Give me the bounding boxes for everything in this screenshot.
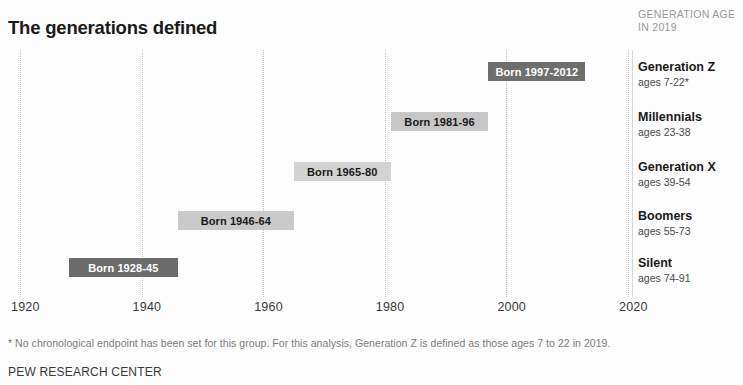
generations-chart-figure: The generations defined GENERATION AGE I… [0, 0, 743, 385]
legend-item-ages: ages 74-91 [638, 271, 743, 285]
legend-item-name: Silent [638, 256, 743, 271]
legend-item-name: Boomers [638, 209, 743, 224]
x-tick-label-2000: 2000 [497, 300, 526, 314]
gridline-2000 [506, 50, 507, 297]
bar-generation-z: Born 1997-2012 [488, 62, 585, 81]
legend-item-name: Generation X [638, 160, 743, 175]
footnote: * No chronological endpoint has been set… [8, 337, 610, 349]
chart-plot-area: Born 1997-2012Born 1981-96Born 1965-80Bo… [0, 50, 640, 297]
legend-item-ages: ages 55-73 [638, 224, 743, 238]
x-tick-label-1920: 1920 [11, 300, 40, 314]
x-tick-label-1940: 1940 [133, 300, 162, 314]
page-title: The generations defined [8, 17, 217, 39]
gridline-2020 [628, 50, 629, 297]
legend-item-ages: ages 23-38 [638, 125, 743, 139]
x-axis: 192019401960198020002020 [0, 300, 640, 322]
legend-item-ages: ages 39-54 [638, 175, 743, 189]
x-tick-label-1980: 1980 [376, 300, 405, 314]
source-label: PEW RESEARCH CENTER [8, 365, 162, 379]
bar-silent: Born 1928-45 [69, 258, 178, 277]
legend-item-millennials: Millennialsages 23-38 [638, 110, 743, 139]
legend-divider [632, 50, 633, 297]
legend-item-generation-z: Generation Zages 7-22* [638, 60, 743, 89]
legend-header-line-1: GENERATION AGE [638, 8, 743, 21]
gridline-1960 [263, 50, 264, 297]
legend-item-silent: Silentages 74-91 [638, 256, 743, 285]
x-tick-label-2020: 2020 [619, 300, 648, 314]
bar-millennials: Born 1981-96 [391, 112, 488, 131]
gridline-1920 [20, 50, 21, 297]
legend-item-generation-x: Generation Xages 39-54 [638, 160, 743, 189]
legend-item-name: Generation Z [638, 60, 743, 75]
legend-item-ages: ages 7-22* [638, 75, 743, 89]
bar-generation-x: Born 1965-80 [294, 162, 391, 181]
legend-item-name: Millennials [638, 110, 743, 125]
legend-item-boomers: Boomersages 55-73 [638, 209, 743, 238]
legend-header: GENERATION AGE IN 2019 [638, 8, 743, 34]
legend-header-line-2: IN 2019 [638, 21, 743, 34]
x-tick-label-1960: 1960 [254, 300, 283, 314]
bar-boomers: Born 1946-64 [178, 211, 294, 230]
